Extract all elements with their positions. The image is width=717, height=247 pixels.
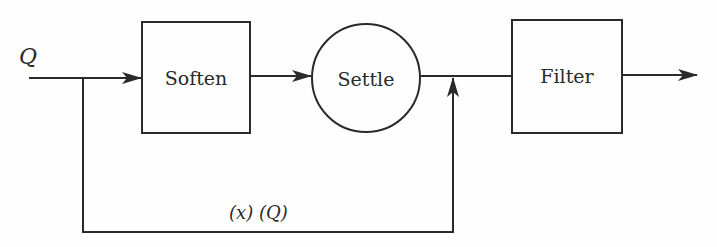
settle-label: Settle: [338, 68, 395, 90]
input-label: Q: [19, 44, 37, 69]
bypass-label: (x) (Q): [229, 202, 288, 223]
flow-diagram: Q Soften Settle Filter (x) (Q): [0, 0, 717, 247]
diagram-lines: [0, 0, 717, 247]
soften-label: Soften: [165, 67, 228, 89]
filter-label: Filter: [540, 65, 593, 87]
